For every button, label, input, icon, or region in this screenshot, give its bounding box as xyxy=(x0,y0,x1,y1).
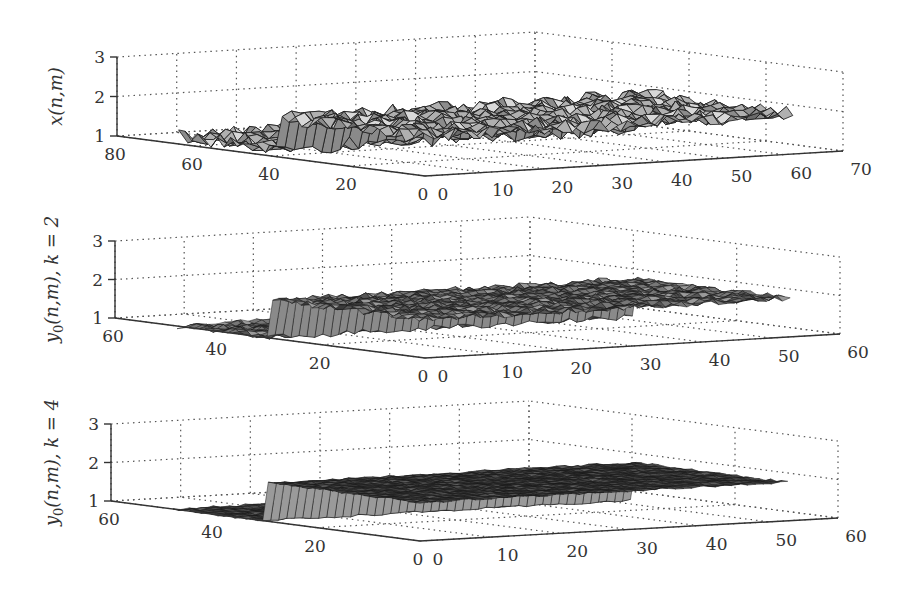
n-axis-tick-label: 40 xyxy=(206,339,228,359)
n-axis-tick-label: 40 xyxy=(201,522,223,542)
n-axis-tick-label: 80 xyxy=(104,144,126,164)
n-axis-tick-label: 0 xyxy=(418,366,429,386)
n-axis-tick-label: 40 xyxy=(258,164,280,184)
z-tick-label: 2 xyxy=(92,270,103,290)
m-axis-tick-label: 10 xyxy=(497,545,519,565)
grid xyxy=(111,401,838,541)
grid xyxy=(115,217,840,358)
m-axis-tick-label: 50 xyxy=(776,530,798,550)
z-axis-label: y0(n,m), k = 4 xyxy=(41,399,66,527)
n-axis-tick-label: 60 xyxy=(181,154,203,174)
m-axis-tick-label: 50 xyxy=(731,166,753,186)
m-axis-tick-label: 10 xyxy=(492,180,514,200)
surface-panel-2: 12360402000102030405060y0(n,m), k = 2 xyxy=(41,216,869,386)
n-axis-tick-label: 20 xyxy=(304,536,326,556)
n-axis-tick-label: 20 xyxy=(309,353,331,373)
n-axis-tick-label: 0 xyxy=(418,184,429,204)
n-axis-tick-label: 20 xyxy=(335,174,357,194)
m-axis-tick-label: 30 xyxy=(611,173,633,193)
surface-panel-3: 12360402000102030405060y0(n,m), k = 4 xyxy=(41,399,867,569)
surface-mesh xyxy=(173,462,788,521)
figure: 123806040200010203040506070x(n,m) 123604… xyxy=(0,0,910,589)
m-axis-tick-label: 40 xyxy=(671,170,693,190)
m-axis-tick-label: 0 xyxy=(438,366,449,386)
z-axis-label: x(n,m) xyxy=(45,67,66,126)
m-axis-tick-label: 40 xyxy=(706,534,728,554)
z-tick-label: 2 xyxy=(94,87,105,107)
m-axis-tick-label: 60 xyxy=(847,342,869,362)
z-tick-label: 3 xyxy=(94,47,105,67)
m-axis-tick-label: 10 xyxy=(501,362,523,382)
z-tick-label: 1 xyxy=(92,308,103,328)
m-axis-tick-label: 60 xyxy=(790,163,812,183)
m-axis-tick-label: 20 xyxy=(567,541,589,561)
m-axis-tick-label: 30 xyxy=(636,538,658,558)
m-axis-tick-label: 20 xyxy=(552,177,574,197)
m-axis-tick-label: 40 xyxy=(709,350,731,370)
m-axis-tick-label: 0 xyxy=(438,184,449,204)
n-axis-tick-label: 60 xyxy=(102,326,124,346)
z-tick-label: 3 xyxy=(92,231,103,251)
z-tick-label: 1 xyxy=(94,126,105,146)
z-tick-label: 3 xyxy=(88,414,99,434)
n-axis-tick-label: 60 xyxy=(98,509,120,529)
m-axis-tick-label: 60 xyxy=(845,526,867,546)
surface-panel-1: 123806040200010203040506070x(n,m) xyxy=(45,32,872,204)
z-tick-label: 1 xyxy=(88,491,99,511)
m-axis-tick-label: 20 xyxy=(571,358,593,378)
m-axis-tick-label: 50 xyxy=(778,346,800,366)
z-tick-label: 2 xyxy=(88,453,99,473)
m-axis-tick-label: 0 xyxy=(433,549,444,569)
n-axis-tick-label: 0 xyxy=(413,549,424,569)
z-axis-label: y0(n,m), k = 2 xyxy=(41,216,66,344)
m-axis-tick-label: 70 xyxy=(850,159,872,179)
surface-mesh xyxy=(177,277,790,339)
m-axis-tick-label: 30 xyxy=(640,354,662,374)
